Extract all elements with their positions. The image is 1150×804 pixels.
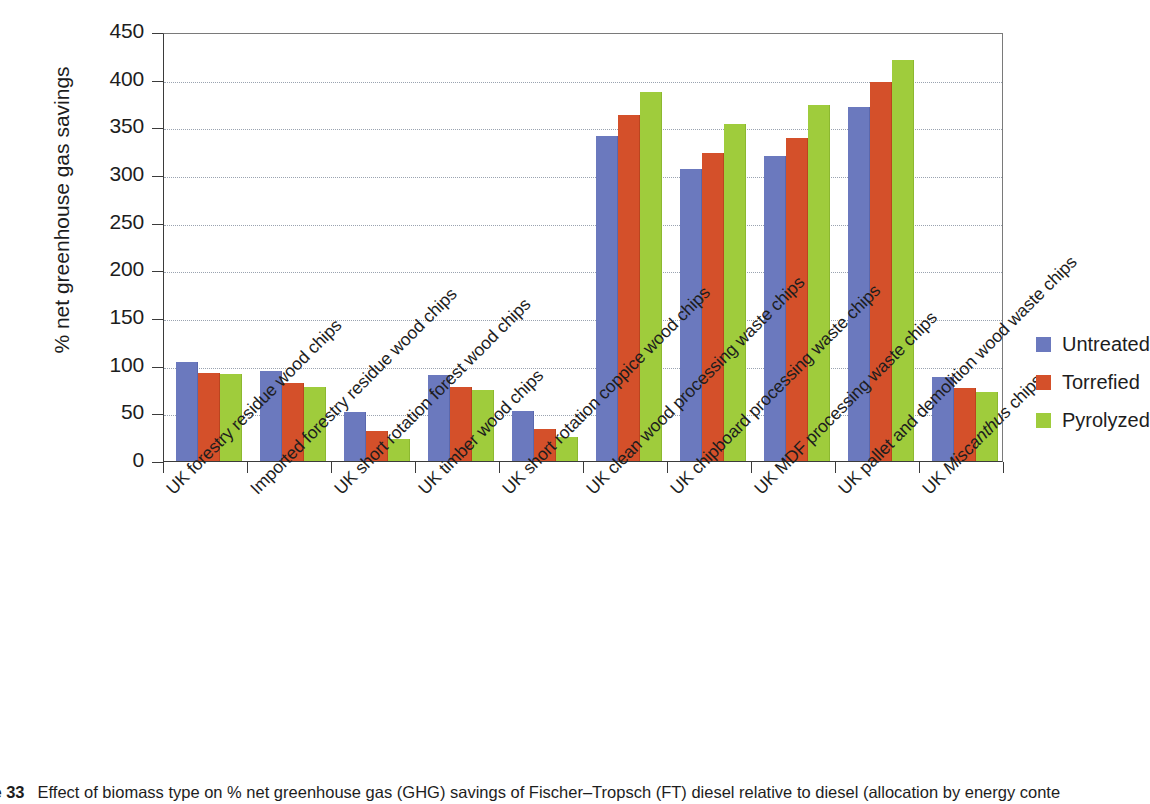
- y-axis-tick-label: 50: [84, 400, 144, 424]
- y-axis-tick: [152, 271, 163, 272]
- x-axis-tick: [163, 462, 164, 473]
- y-axis-tick: [152, 224, 163, 225]
- x-axis-tick: [499, 462, 500, 473]
- legend: UntreatedTorrefiedPyrolyzed: [1036, 325, 1150, 439]
- x-axis-tick: [667, 462, 668, 473]
- x-axis-tick: [247, 462, 248, 473]
- y-axis-tick: [152, 128, 163, 129]
- y-axis-title: % net greenhouse gas savings: [50, 60, 74, 360]
- y-axis-tick: [152, 319, 163, 320]
- x-axis-tick: [1003, 462, 1004, 473]
- legend-label: Untreated: [1062, 333, 1150, 356]
- y-axis-tick-label: 0: [84, 448, 144, 472]
- legend-swatch-icon: [1036, 337, 1051, 352]
- x-axis-tick: [751, 462, 752, 473]
- legend-item: Pyrolyzed: [1036, 401, 1150, 439]
- y-axis-tick-label: 450: [84, 19, 144, 43]
- legend-item: Untreated: [1036, 325, 1150, 363]
- x-axis-tick: [919, 462, 920, 473]
- figure-caption-text: Effect of biomass type on % net greenhou…: [38, 783, 1061, 801]
- legend-swatch-icon: [1036, 375, 1051, 390]
- y-axis-tick-label: 150: [84, 305, 144, 329]
- bar: [892, 60, 914, 461]
- bar: [870, 82, 892, 461]
- y-axis-tick-label: 400: [84, 67, 144, 91]
- y-axis-tick: [152, 462, 163, 463]
- bar-group: [176, 34, 242, 461]
- figure-caption-label: re 33: [0, 783, 25, 801]
- x-axis-tick: [583, 462, 584, 473]
- x-axis-tick: [331, 462, 332, 473]
- x-axis-tick: [415, 462, 416, 473]
- bar: [702, 153, 724, 461]
- y-axis-tick-label: 250: [84, 210, 144, 234]
- figure-caption: re 33Effect of biomass type on % net gre…: [0, 783, 1149, 804]
- x-axis-tick: [835, 462, 836, 473]
- y-axis-tick: [152, 176, 163, 177]
- y-axis-tick-label: 350: [84, 114, 144, 138]
- y-axis-tick: [152, 81, 163, 82]
- y-axis-tick-label: 300: [84, 162, 144, 186]
- legend-swatch-icon: [1036, 413, 1051, 428]
- legend-item: Torrefied: [1036, 363, 1150, 401]
- y-axis-tick: [152, 367, 163, 368]
- y-axis-tick: [152, 33, 163, 34]
- bar: [176, 362, 198, 461]
- legend-label: Torrefied: [1062, 371, 1140, 394]
- legend-label: Pyrolyzed: [1062, 409, 1150, 432]
- y-axis-tick-label: 100: [84, 353, 144, 377]
- y-axis-tick-label: 200: [84, 257, 144, 281]
- y-axis-tick: [152, 414, 163, 415]
- bar: [618, 115, 640, 461]
